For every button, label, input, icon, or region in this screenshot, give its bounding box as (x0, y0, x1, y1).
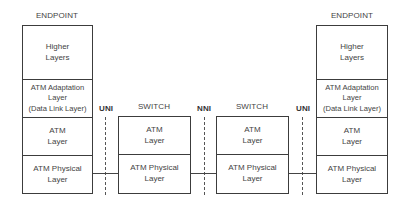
endpoint-right-stack: Higher Layers ATM Adaptation Layer (Data… (316, 25, 388, 194)
physical-link-3 (289, 173, 316, 174)
uni-label-left: UNI (94, 104, 118, 113)
uni-boundary-right (302, 117, 303, 195)
atm-layer: ATM Layer (119, 117, 190, 154)
endpoint-right-title: ENDPOINT (316, 11, 388, 20)
atm-physical-layer: ATM Physical Layer (23, 155, 92, 193)
endpoint-left-title: ENDPOINT (22, 11, 92, 20)
switch-2-stack: ATM Layer ATM Physical Layer (216, 116, 289, 194)
atm-physical-layer: ATM Physical Layer (317, 155, 387, 193)
atm-layer: ATM Layer (217, 117, 288, 154)
physical-link-2 (191, 173, 216, 174)
uni-boundary-left (105, 117, 106, 195)
switch-1-title: SWITCH (118, 102, 190, 111)
nni-boundary (204, 117, 205, 195)
atm-adaptation-layer: ATM Adaptation Layer (Data Link Layer) (23, 79, 92, 117)
atm-physical-layer: ATM Physical Layer (217, 154, 288, 192)
higher-layers: Higher Layers (317, 26, 387, 79)
atm-adaptation-layer: ATM Adaptation Layer (Data Link Layer) (317, 79, 387, 117)
switch-1-stack: ATM Layer ATM Physical Layer (118, 116, 191, 194)
nni-label: NNI (192, 104, 216, 113)
atm-layer: ATM Layer (317, 117, 387, 155)
atm-layer: ATM Layer (23, 117, 92, 155)
higher-layers: Higher Layers (23, 26, 92, 79)
atm-physical-layer: ATM Physical Layer (119, 154, 190, 192)
physical-link-1 (93, 173, 118, 174)
uni-label-right: UNI (291, 104, 315, 113)
switch-2-title: SWITCH (216, 102, 288, 111)
endpoint-left-stack: Higher Layers ATM Adaptation Layer (Data… (22, 25, 93, 194)
